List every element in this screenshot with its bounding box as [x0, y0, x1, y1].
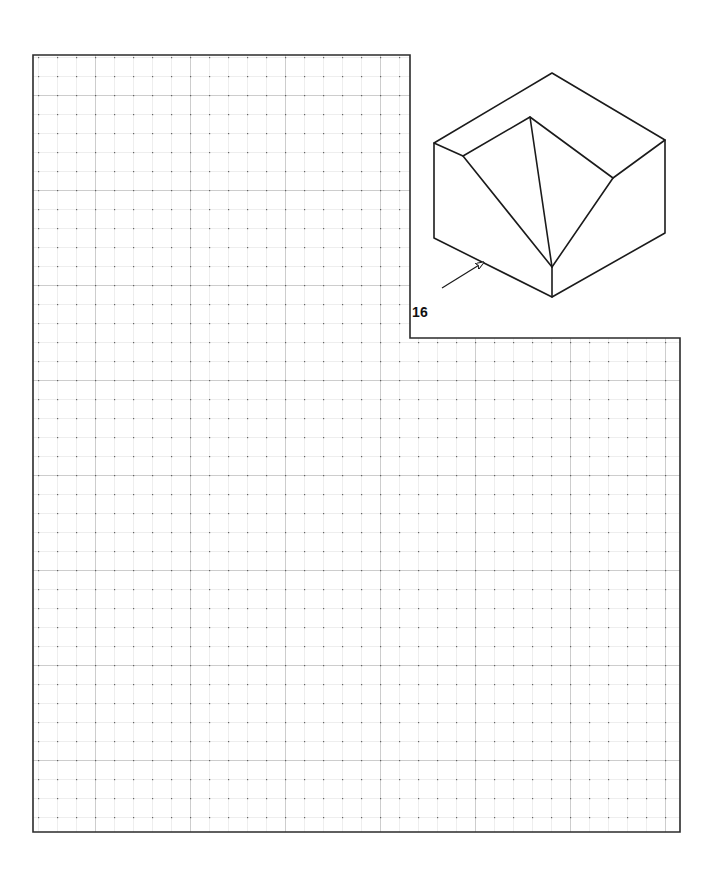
- grid-paper: [33, 55, 680, 832]
- groove-right-slope-edge: [552, 178, 613, 267]
- grid-fill: [33, 55, 680, 832]
- grid-intersection-nodes: [33, 55, 680, 832]
- view-direction-arrow: [442, 262, 484, 288]
- worksheet-page: 16: [0, 0, 719, 875]
- isometric-pictorial-view: [434, 73, 665, 297]
- problem-number-label: 16: [412, 304, 428, 320]
- top-face-ledge-edge: [434, 117, 665, 178]
- worksheet-drawing-area: [0, 0, 719, 875]
- view-direction-arrow-line: [442, 262, 484, 288]
